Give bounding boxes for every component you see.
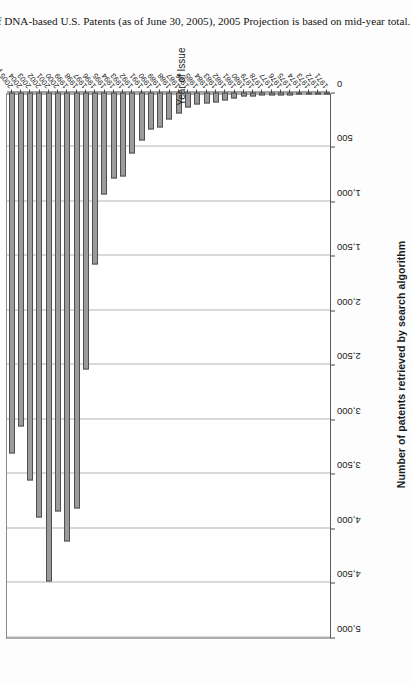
bar-row	[44, 94, 53, 637]
category-tick	[317, 89, 318, 93]
bar-row	[53, 94, 62, 637]
category-tick	[122, 89, 123, 93]
value-tick-label: 500	[337, 133, 353, 144]
bar	[157, 92, 163, 127]
bar-row	[202, 94, 211, 637]
bar-row	[156, 94, 165, 637]
bar	[74, 92, 80, 508]
bar	[83, 92, 89, 369]
category-tick	[104, 89, 105, 93]
value-tick-label: 4,000	[337, 514, 361, 525]
category-tick	[169, 89, 170, 93]
category-tick	[243, 89, 244, 93]
bar	[64, 92, 70, 541]
category-tick	[76, 89, 77, 93]
bar	[46, 92, 52, 581]
value-tick-label: 3,500	[337, 460, 361, 471]
bar-row	[7, 94, 16, 637]
bar-row	[221, 94, 230, 637]
plot-area	[6, 93, 331, 638]
bar-row	[81, 94, 90, 637]
bar-row	[174, 94, 183, 637]
bar-row	[26, 94, 35, 637]
category-tick	[94, 89, 95, 93]
category-axis: 2005 projected20042003200220012000199919…	[6, 45, 331, 93]
category-tick	[29, 89, 30, 93]
bar-row	[137, 94, 146, 637]
value-tick	[331, 365, 335, 366]
value-tick	[331, 528, 335, 529]
category-tick	[20, 89, 21, 93]
bar	[166, 92, 172, 119]
category-tick	[85, 89, 86, 93]
figure-caption-text: FIGURE 4-1 Number of DNA-based U.S. Pate…	[0, 14, 410, 26]
bar-row	[165, 94, 174, 637]
bar-row	[276, 94, 285, 637]
bar-row	[239, 94, 248, 637]
bar	[27, 92, 33, 480]
value-tick	[331, 201, 335, 202]
category-tick	[150, 89, 151, 93]
value-tick-label: 2,000	[337, 296, 361, 307]
category-tick	[196, 89, 197, 93]
bar	[9, 92, 15, 453]
bar-row	[109, 94, 118, 637]
category-tick	[261, 89, 262, 93]
value-tick	[331, 147, 335, 148]
value-tick-label: 4,500	[337, 569, 361, 580]
figure-caption: FIGURE 4-1 Number of DNA-based U.S. Pate…	[0, 6, 410, 34]
category-tick	[187, 89, 188, 93]
bar	[204, 92, 210, 103]
value-tick	[331, 310, 335, 311]
category-axis-title: Year of Issue	[176, 47, 187, 105]
bar	[148, 92, 154, 129]
value-tick-label: 5,000	[337, 623, 361, 634]
bar	[55, 92, 61, 511]
bar-row	[63, 94, 72, 637]
category-tick	[289, 89, 290, 93]
bar-series	[7, 94, 330, 637]
value-tick	[331, 583, 335, 584]
bar	[101, 92, 107, 194]
value-axis-title: Number of patents retrieved by search al…	[395, 79, 407, 649]
bar-row	[286, 94, 295, 637]
bar-row	[295, 94, 304, 637]
bar-row	[258, 94, 267, 637]
bar	[111, 92, 117, 178]
bar	[139, 92, 145, 140]
category-tick	[141, 89, 142, 93]
category-tick	[66, 89, 67, 93]
bar-row	[146, 94, 155, 637]
bar-row	[304, 94, 313, 637]
bar-row	[193, 94, 202, 637]
category-tick	[39, 89, 40, 93]
value-tick-label: 1,000	[337, 187, 361, 198]
category-tick	[299, 89, 300, 93]
value-tick-label: 2,500	[337, 351, 361, 362]
bar-row	[35, 94, 44, 637]
figure-page: 05001,0001,5002,0002,5003,0003,5004,0004…	[0, 0, 410, 685]
category-tick	[206, 89, 207, 93]
value-tick	[331, 419, 335, 420]
bar-row	[16, 94, 25, 637]
bar-row	[72, 94, 81, 637]
category-tick	[308, 89, 309, 93]
category-tick	[159, 89, 160, 93]
bar	[18, 92, 24, 426]
value-tick	[331, 256, 335, 257]
bar-row	[248, 94, 257, 637]
category-tick	[271, 89, 272, 93]
category-tick	[215, 89, 216, 93]
bar-row	[118, 94, 127, 637]
value-tick	[331, 637, 335, 638]
value-tick	[331, 92, 335, 93]
value-tick	[331, 474, 335, 475]
category-tick	[57, 89, 58, 93]
category-tick	[48, 89, 49, 93]
category-tick	[131, 89, 132, 93]
chart-figure: 05001,0001,5002,0002,5003,0003,5004,0004…	[0, 45, 410, 685]
category-tick	[252, 89, 253, 93]
category-tick	[326, 89, 327, 93]
bar-row	[91, 94, 100, 637]
category-tick	[234, 89, 235, 93]
